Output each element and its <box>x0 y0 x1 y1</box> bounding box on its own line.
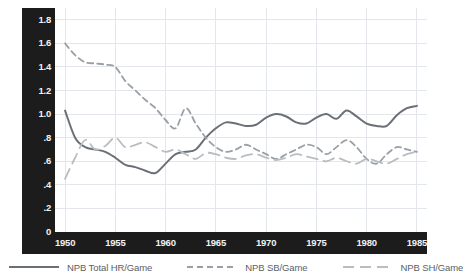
y-axis-tick-label: 0 <box>22 227 51 237</box>
y-axis-tick-label: 1.8 <box>22 15 51 25</box>
legend-swatch-dashed-icon <box>186 262 238 272</box>
plot-svg <box>55 8 427 232</box>
y-axis-tick-label: .6 <box>22 156 51 166</box>
y-axis-tick-label: 1.2 <box>22 86 51 96</box>
y-axis-tick-label: 1.4 <box>22 62 51 72</box>
legend-item-3[interactable]: NPB SH/Game <box>342 262 463 273</box>
x-axis-tick-label: 1980 <box>347 237 387 248</box>
legend-swatch-solid-icon <box>8 262 60 272</box>
y-axis-tick-label: .2 <box>22 203 51 213</box>
x-axis-tick-label: 1950 <box>45 237 85 248</box>
y-axis-tick-label: .4 <box>22 180 51 190</box>
x-axis-tick-label: 1965 <box>196 237 236 248</box>
x-axis-tick-label: 1955 <box>95 237 135 248</box>
series-lines <box>65 43 417 179</box>
x-axis-tick-label: 1985 <box>397 237 437 248</box>
legend-item-1[interactable]: NPB Total HR/Game <box>8 262 152 273</box>
legend-swatch-longdash-icon <box>342 262 394 272</box>
plot-area <box>55 8 427 232</box>
x-axis-tick-label: 1960 <box>146 237 186 248</box>
legend-label: NPB SB/Game <box>245 262 307 273</box>
y-axis-tick-label: .8 <box>22 133 51 143</box>
legend-label: NPB Total HR/Game <box>67 262 152 273</box>
gridlines <box>55 8 427 232</box>
series-line-2 <box>65 43 417 163</box>
x-axis-tick-label: 1970 <box>246 237 286 248</box>
y-axis-tick-label: 1.0 <box>22 109 51 119</box>
y-axis-tick-label: 1.6 <box>22 38 51 48</box>
x-axis-tick-label: 1975 <box>296 237 336 248</box>
chart-legend: NPB Total HR/Game NPB SB/Game NPB SH/Gam… <box>8 258 431 276</box>
legend-label: NPB SH/Game <box>401 262 463 273</box>
legend-item-2[interactable]: NPB SB/Game <box>186 262 307 273</box>
